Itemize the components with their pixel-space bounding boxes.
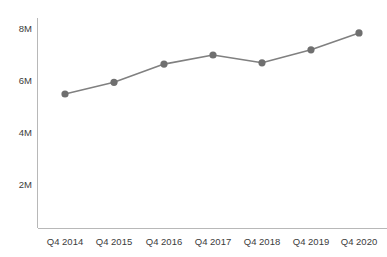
x-tick-label: Q4 2018 [244,236,280,247]
line-chart-plot: 8M 6M 4M 2M Q4 2014 Q4 2015 Q4 2016 Q4 2… [0,0,387,257]
x-tick-label: Q4 2016 [146,236,182,247]
y-tick-label: 4M [19,127,32,138]
data-point-marker [258,59,265,66]
data-point-marker [110,79,117,86]
data-point-marker [61,90,68,97]
x-tick-label: Q4 2019 [293,236,329,247]
x-tick-label: Q4 2020 [341,236,377,247]
chart-container: 8M 6M 4M 2M Q4 2014 Q4 2015 Q4 2016 Q4 2… [0,0,387,257]
y-tick-label: 6M [19,75,32,86]
data-point-marker [209,51,216,58]
series-markers [61,29,362,97]
x-tick-label: Q4 2017 [195,236,231,247]
x-axis-tick-labels: Q4 2014 Q4 2015 Q4 2016 Q4 2017 Q4 2018 … [47,236,377,247]
data-point-marker [307,46,314,53]
data-point-marker [160,61,167,68]
y-axis-tick-labels: 8M 6M 4M 2M [19,23,32,190]
x-tick-label: Q4 2015 [96,236,132,247]
y-tick-label: 8M [19,23,32,34]
y-tick-label: 2M [19,179,32,190]
x-tick-label: Q4 2014 [47,236,83,247]
series-line-path [65,33,359,94]
data-point-marker [355,29,362,36]
